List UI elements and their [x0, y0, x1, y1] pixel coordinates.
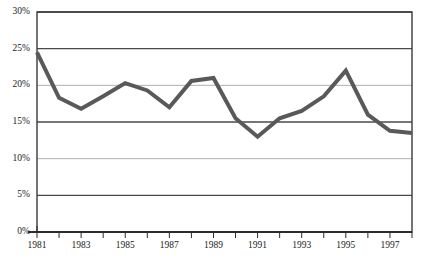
y-tick-label-10: 10%	[0, 154, 30, 164]
x-tick-label-1987: 1987	[149, 241, 189, 251]
y-tick-label-15: 15%	[0, 117, 30, 127]
x-tick-label-1985: 1985	[105, 241, 145, 251]
y-tick-label-5: 5%	[0, 190, 30, 200]
y-tick-label-20: 20%	[0, 80, 30, 90]
chart-plot-area	[0, 0, 428, 259]
x-tick-label-1981: 1981	[17, 241, 57, 251]
x-tick-label-1983: 1983	[61, 241, 101, 251]
x-tick-label-1995: 1995	[326, 241, 366, 251]
x-tick-label-1991: 1991	[238, 241, 278, 251]
x-tick-label-1989: 1989	[193, 241, 233, 251]
x-tick-label-1997: 1997	[370, 241, 410, 251]
x-tick-label-1993: 1993	[282, 241, 322, 251]
line-chart: 0%5%10%15%20%25%30%198119831985198719891…	[0, 0, 428, 259]
y-tick-label-30: 30%	[0, 7, 30, 17]
y-tick-label-0: 0%	[0, 227, 30, 237]
y-tick-label-25: 25%	[0, 44, 30, 54]
